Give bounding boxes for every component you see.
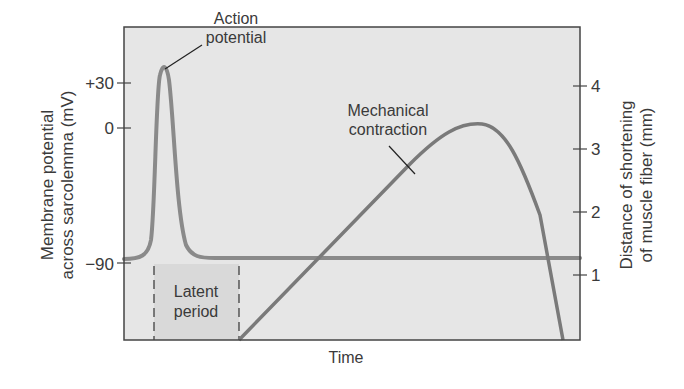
left-tick-label: 0 xyxy=(105,119,114,138)
chart: +30 0 −90 4 3 2 1 Membrane potential acr… xyxy=(0,0,684,389)
contraction-annotation: Mechanical xyxy=(348,102,429,119)
x-axis-label: Time xyxy=(329,349,364,366)
svg-text:of muscle fiber (mm): of muscle fiber (mm) xyxy=(637,108,656,263)
contraction-annotation: contraction xyxy=(349,121,427,138)
right-tick-label: 3 xyxy=(591,140,600,159)
left-tick-label: +30 xyxy=(85,74,114,93)
right-axis-label: Distance of shortening of muscle fiber (… xyxy=(617,100,656,269)
right-tick-label: 2 xyxy=(591,203,600,222)
left-axis-label: Membrane potential across sarcolemma (mV… xyxy=(38,91,77,280)
svg-text:Distance of shortening: Distance of shortening xyxy=(617,100,636,269)
latent-period-annotation: period xyxy=(174,303,218,320)
action-potential-annotation: potential xyxy=(206,29,267,46)
right-tick-label: 1 xyxy=(591,266,600,285)
svg-text:across sarcolemma (mV): across sarcolemma (mV) xyxy=(58,91,77,280)
latent-period-box xyxy=(154,264,239,340)
latent-period-annotation: Latent xyxy=(174,283,219,300)
action-potential-annotation: Action xyxy=(214,10,258,27)
right-tick-label: 4 xyxy=(591,77,600,96)
svg-text:Membrane potential: Membrane potential xyxy=(38,110,57,260)
left-tick-label: −90 xyxy=(85,255,114,274)
